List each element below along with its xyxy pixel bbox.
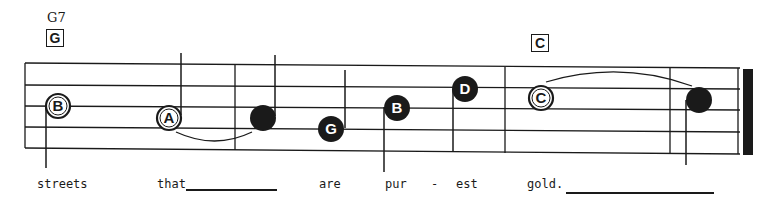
lyric-that: that xyxy=(157,177,186,191)
lyric-extender-that xyxy=(186,189,277,191)
staff-lines xyxy=(25,63,740,154)
note-letter: B xyxy=(53,97,64,114)
chord-name-g7: G7 xyxy=(47,10,66,25)
lyric-gold: gold. xyxy=(527,177,563,191)
chord-box-g: G xyxy=(46,29,64,47)
lyric-hyphen: - xyxy=(431,177,438,191)
lyric-pur: pur xyxy=(385,177,407,191)
tie-a-to-filled xyxy=(176,132,252,141)
lyric-are: are xyxy=(319,177,341,191)
lyric-streets: streets xyxy=(37,177,88,191)
note-letter: G xyxy=(325,120,337,137)
chord-box-c: C xyxy=(531,34,549,52)
note-letter: B xyxy=(392,99,403,116)
barline-final-thick xyxy=(743,69,753,155)
note-letter: A xyxy=(164,109,175,126)
note-filled-final xyxy=(686,87,712,113)
note-filled-tied xyxy=(250,105,276,131)
stems xyxy=(46,53,686,172)
note-letter: D xyxy=(460,80,471,97)
lyric-extender-gold xyxy=(566,192,714,194)
lyric-est: est xyxy=(456,177,478,191)
note-letter: C xyxy=(536,89,547,106)
